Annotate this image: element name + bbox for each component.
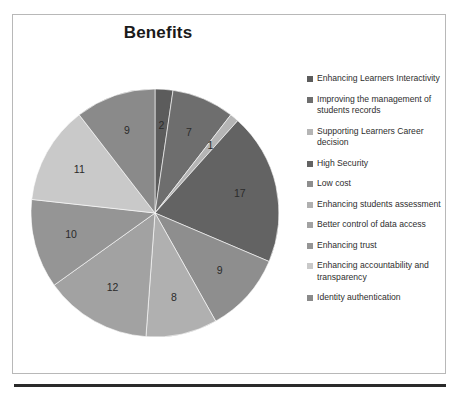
legend-item[interactable]: High Security <box>307 158 457 170</box>
pie-slices <box>31 89 279 337</box>
legend-item[interactable]: Better control of data access <box>307 219 457 231</box>
legend-item[interactable]: Enhancing Learners Interactivity <box>307 73 457 85</box>
legend-item[interactable]: Supporting Learners Career decision <box>307 126 457 149</box>
pie-slice-label: 10 <box>65 228 77 240</box>
pie-slice-label: 8 <box>171 291 177 303</box>
pie-svg: 27117981210119 <box>31 63 281 363</box>
legend-swatch-icon <box>307 161 313 167</box>
legend-swatch-icon <box>307 222 313 228</box>
legend-swatch-icon <box>307 97 313 103</box>
legend-item-label: Supporting Learners Career decision <box>317 126 457 149</box>
clipped-caption <box>14 392 446 401</box>
legend-swatch-icon <box>307 129 313 135</box>
legend-item-label: Enhancing accountability and transparenc… <box>317 260 457 283</box>
pie-slice-label: 11 <box>74 163 85 175</box>
pie-slice-label: 9 <box>217 264 223 276</box>
legend-item[interactable]: Enhancing accountability and transparenc… <box>307 260 457 283</box>
bottom-divider <box>14 384 446 387</box>
chart-title: Benefits <box>13 23 303 43</box>
pie-slice-label: 12 <box>107 281 119 293</box>
legend-item-label: Enhancing Learners Interactivity <box>317 73 440 85</box>
chart-frame: Benefits 27117981210119 Enhancing Learne… <box>12 14 446 374</box>
pie-chart: 27117981210119 <box>31 63 281 363</box>
pie-slice-label: 7 <box>186 126 192 138</box>
legend-swatch-icon <box>307 76 313 82</box>
legend-swatch-icon <box>307 181 313 187</box>
pie-slice-label: 2 <box>158 119 164 131</box>
legend-swatch-icon <box>307 202 313 208</box>
legend-item-label: Enhancing students assessment <box>317 199 441 211</box>
legend-item-label: Identity authentication <box>317 292 401 304</box>
legend-item-label: Enhancing trust <box>317 240 377 252</box>
legend-item-label: Low cost <box>317 178 351 190</box>
legend-swatch-icon <box>307 243 313 249</box>
legend-item-label: High Security <box>317 158 368 170</box>
pie-slice-label: 17 <box>234 187 246 199</box>
legend-swatch-icon <box>307 295 313 301</box>
legend-swatch-icon <box>307 263 313 269</box>
legend-item-label: Better control of data access <box>317 219 426 231</box>
legend-item[interactable]: Enhancing trust <box>307 240 457 252</box>
legend-item[interactable]: Enhancing students assessment <box>307 199 457 211</box>
legend: Enhancing Learners InteractivityImprovin… <box>307 73 457 313</box>
legend-item[interactable]: Low cost <box>307 178 457 190</box>
pie-slice-label: 9 <box>124 124 130 136</box>
legend-item[interactable]: Identity authentication <box>307 292 457 304</box>
pie-slice-label: 1 <box>208 139 214 151</box>
legend-item-label: Improving the management of students rec… <box>317 94 457 117</box>
legend-item[interactable]: Improving the management of students rec… <box>307 94 457 117</box>
